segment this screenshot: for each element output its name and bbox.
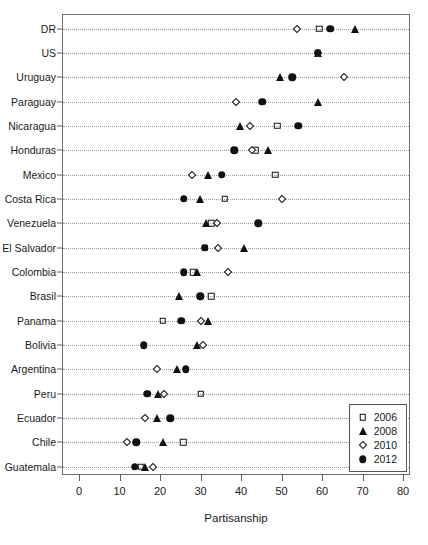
y-axis-tick-label: Brasil — [30, 291, 63, 302]
y-axis-tick-label: Mexico — [23, 169, 63, 180]
marker-filled-triangle — [159, 438, 167, 446]
y-axis-tick-label: Venezuela — [7, 218, 63, 229]
marker-filled-circle — [288, 73, 296, 81]
marker-filled-circle — [258, 98, 266, 106]
marker-filled-circle — [166, 414, 174, 422]
legend-item: 2008 — [356, 424, 397, 438]
y-axis-tick-label: Guatemala — [5, 462, 63, 473]
marker-filled-circle — [177, 317, 185, 325]
x-axis-tick-label: 20 — [154, 485, 166, 497]
marker-filled-triangle — [314, 98, 322, 106]
marker-filled-triangle — [276, 73, 284, 81]
marker-filled-circle — [180, 268, 188, 276]
marker-filled-circle — [140, 341, 148, 349]
marker-filled-triangle — [240, 244, 248, 252]
grid-line — [63, 77, 409, 78]
marker-filled-circle — [359, 455, 367, 463]
y-axis-tick-label: Costa Rica — [5, 194, 63, 205]
marker-filled-circle — [132, 439, 140, 447]
marker-open-diamond — [232, 97, 240, 105]
legend-label: 2006 — [374, 411, 397, 423]
y-axis-tick-label: Chile — [32, 437, 63, 448]
x-axis-tick — [241, 474, 242, 481]
grid-line — [63, 175, 409, 176]
marker-open-diamond — [358, 441, 366, 449]
x-axis-tick — [282, 474, 283, 481]
y-axis-tick-label: Panama — [17, 315, 63, 326]
marker-filled-circle — [131, 463, 139, 471]
marker-filled-circle — [196, 293, 204, 301]
marker-open-square — [180, 439, 187, 446]
plot-area: DRUSUruguayParaguayNicaraguaHondurasMexi… — [62, 14, 410, 475]
marker-filled-triangle — [202, 219, 210, 227]
marker-open-square — [160, 317, 167, 324]
marker-filled-triangle — [153, 414, 161, 422]
marker-filled-circle — [326, 25, 334, 33]
marker-open-square — [316, 25, 323, 32]
marker-open-diamond — [188, 170, 196, 178]
legend-label: 2008 — [374, 425, 397, 437]
grid-line — [63, 369, 409, 370]
marker-open-square — [208, 293, 215, 300]
x-axis-title: Partisanship — [62, 512, 410, 524]
marker-open-diamond — [149, 463, 157, 471]
marker-open-diamond — [153, 365, 161, 373]
marker-open-square — [272, 171, 279, 178]
marker-open-diamond — [246, 122, 254, 130]
marker-open-diamond — [340, 73, 348, 81]
x-axis-tick-label: 70 — [356, 485, 368, 497]
x-axis-tick — [160, 474, 161, 481]
marker-filled-triangle — [236, 122, 244, 130]
marker-filled-triangle — [175, 292, 183, 300]
marker-filled-circle — [314, 49, 322, 57]
x-axis-tick-label: 80 — [397, 485, 409, 497]
grid-line — [63, 53, 409, 54]
x-axis-tick-label: 30 — [194, 485, 206, 497]
y-axis-tick-label: Uruguay — [16, 72, 63, 83]
marker-filled-circle — [218, 171, 226, 179]
marker-open-diamond — [278, 195, 286, 203]
y-axis-tick-label: Colombia — [12, 267, 63, 278]
y-axis-tick-label: Ecuador — [17, 413, 63, 424]
grid-line — [63, 248, 409, 249]
marker-filled-triangle — [196, 195, 204, 203]
marker-open-diamond — [224, 268, 232, 276]
y-axis-tick-label: Paraguay — [11, 96, 63, 107]
x-axis-tick — [403, 474, 404, 481]
x-axis-tick — [201, 474, 202, 481]
marker-filled-circle — [230, 147, 238, 155]
marker-open-diamond — [123, 438, 131, 446]
marker-open-diamond — [141, 414, 149, 422]
legend-label: 2012 — [374, 453, 397, 465]
x-axis-tick — [120, 474, 121, 481]
grid-line — [63, 321, 409, 322]
x-axis-tick-label: 10 — [113, 485, 125, 497]
marker-filled-triangle — [359, 427, 367, 435]
x-axis-tick-label: 60 — [316, 485, 328, 497]
marker-open-square — [274, 123, 281, 130]
marker-filled-circle — [201, 244, 209, 252]
y-axis-tick-label: US — [41, 48, 63, 59]
legend-marker — [356, 410, 370, 424]
y-axis-tick-label: Bolivia — [25, 340, 63, 351]
marker-open-square — [222, 196, 229, 203]
y-axis-tick-label: DR — [41, 23, 63, 34]
x-axis-tick — [363, 474, 364, 481]
grid-line — [63, 199, 409, 200]
marker-open-diamond — [293, 24, 301, 32]
marker-filled-triangle — [264, 146, 272, 154]
legend-marker — [356, 424, 370, 438]
marker-filled-circle — [180, 195, 188, 203]
y-axis-tick-label: Peru — [34, 389, 63, 400]
y-axis-tick-label: El Salvador — [2, 242, 63, 253]
marker-open-square — [359, 414, 366, 421]
legend: 2006200820102012 — [349, 404, 407, 472]
y-axis-tick-label: Nicaragua — [8, 121, 63, 132]
x-axis-tick — [322, 474, 323, 481]
grid-line — [63, 223, 409, 224]
legend-item: 2012 — [356, 452, 397, 466]
grid-line — [63, 272, 409, 273]
marker-filled-circle — [143, 390, 151, 398]
marker-filled-circle — [294, 122, 302, 130]
marker-filled-triangle — [193, 268, 201, 276]
